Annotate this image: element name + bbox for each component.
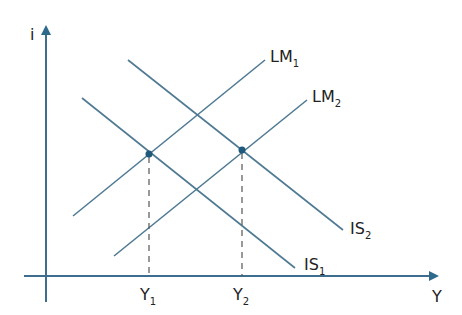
lm2-label: LM2 — [312, 87, 341, 109]
equilibrium-point-1 — [146, 151, 153, 158]
lm1-curve — [73, 60, 265, 216]
lm1-label: LM1 — [270, 47, 299, 69]
y1-tick-label: Y1 — [139, 285, 156, 307]
is1-label: IS1 — [304, 255, 325, 277]
equilibrium-point-2 — [239, 147, 246, 154]
y2-tick-label: Y2 — [232, 285, 249, 307]
is-lm-diagram: i Y LM1 LM2 IS1 IS2 Y1 Y2 — [0, 0, 462, 315]
x-axis-label: Y — [431, 287, 442, 306]
is2-label: IS2 — [350, 219, 371, 241]
y-axis-label: i — [30, 25, 34, 44]
